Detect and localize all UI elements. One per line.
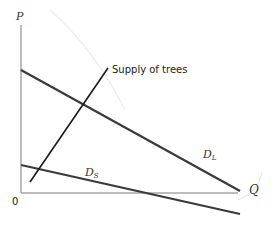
supply-label: Supply of trees <box>112 64 187 75</box>
demand-short-run-label: DS <box>84 166 99 180</box>
y-axis-label: P <box>15 10 24 23</box>
faint-curve <box>50 10 125 110</box>
supply-line <box>30 68 108 182</box>
demand-long-run-label: DL <box>202 148 217 162</box>
x-axis-label: Q <box>249 183 259 197</box>
chart: P Q 0 Supply of trees DL DS <box>0 0 280 226</box>
origin-label: 0 <box>12 196 18 207</box>
